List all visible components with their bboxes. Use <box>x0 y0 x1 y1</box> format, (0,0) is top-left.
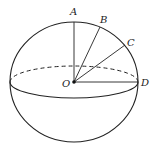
label-C: C <box>127 37 135 48</box>
sphere-diagram: A B C D O <box>0 0 158 146</box>
radius-OB <box>74 27 100 82</box>
label-B: B <box>99 14 107 25</box>
center-point-O <box>72 80 76 84</box>
label-D: D <box>140 77 149 88</box>
label-O: O <box>62 78 70 89</box>
equator-front <box>10 82 138 98</box>
radius-OC <box>74 45 125 82</box>
label-A: A <box>69 6 77 17</box>
